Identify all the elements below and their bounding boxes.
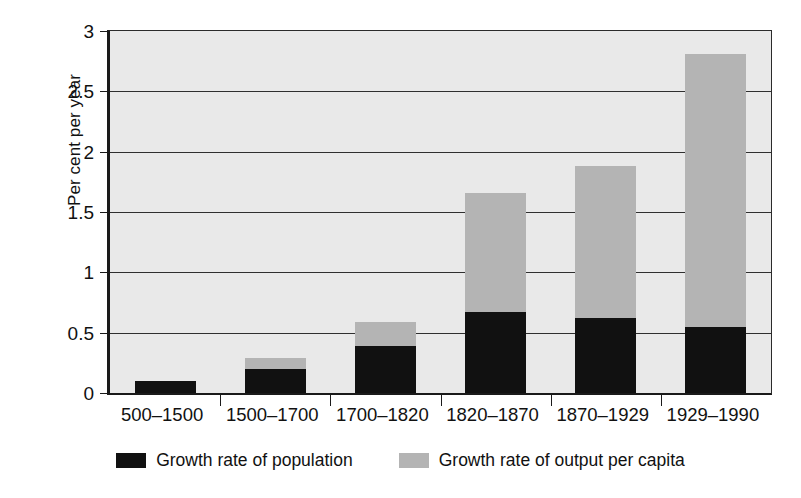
y-axis-tick-label: 0.5 xyxy=(68,323,94,344)
chart-figure: Per cent per year 00.511.522.53 500–1500… xyxy=(0,0,801,498)
bar-segment-population xyxy=(245,369,306,393)
y-axis-tick-label: 1.5 xyxy=(68,202,94,223)
plot-area: 00.511.522.53 xyxy=(107,30,772,395)
y-axis-tick: 0 xyxy=(100,393,110,394)
x-axis-tick-label: 1929–1990 xyxy=(658,404,768,426)
y-axis-tick-label: 0 xyxy=(83,383,94,404)
y-axis-tick-label: 3 xyxy=(83,21,94,42)
gridline xyxy=(110,212,771,213)
y-axis-tick: 2.5 xyxy=(100,91,110,92)
bar-segment-output-per-capita xyxy=(465,193,526,312)
y-axis-tick: 2 xyxy=(100,152,110,153)
bar-segment-population xyxy=(135,381,196,393)
x-axis-tick-label: 1870–1929 xyxy=(548,404,658,426)
bar-segment-population xyxy=(465,312,526,393)
y-axis-tick: 1 xyxy=(100,272,110,273)
y-axis-tick-label: 2.5 xyxy=(68,81,94,102)
gray-swatch-icon xyxy=(399,453,429,468)
gridline xyxy=(110,152,771,153)
y-axis-tick: 3 xyxy=(100,31,110,32)
y-axis-tick: 1.5 xyxy=(100,212,110,213)
legend-item: Growth rate of output per capita xyxy=(399,450,685,470)
bar-stack xyxy=(685,54,746,393)
legend-label: Growth rate of population xyxy=(156,450,353,470)
y-axis-tick-label: 1 xyxy=(83,262,94,283)
bar-stack xyxy=(135,381,196,393)
bar-segment-population xyxy=(355,346,416,393)
bar-segment-output-per-capita xyxy=(355,322,416,346)
x-axis-tick-label: 1820–1870 xyxy=(438,404,548,426)
y-axis-tick: 0.5 xyxy=(100,333,110,334)
x-axis-tick-label: 1500–1700 xyxy=(217,404,327,426)
gridline xyxy=(110,333,771,334)
gridline xyxy=(110,91,771,92)
bar-segment-output-per-capita xyxy=(245,358,306,369)
bar-stack xyxy=(575,166,636,393)
bar-stack xyxy=(465,193,526,393)
x-axis-tick-label: 1700–1820 xyxy=(327,404,437,426)
black-swatch-icon xyxy=(116,453,146,468)
x-axis-tick-label: 500–1500 xyxy=(107,404,217,426)
bar-segment-population xyxy=(575,318,636,393)
bar-segment-output-per-capita xyxy=(575,166,636,318)
y-axis-title: Per cent per year xyxy=(65,0,85,290)
bar-stack xyxy=(245,358,306,393)
bar-segment-population xyxy=(685,327,746,393)
bar-stack xyxy=(355,322,416,393)
legend-label: Growth rate of output per capita xyxy=(439,450,685,470)
bar-segment-output-per-capita xyxy=(685,54,746,327)
legend-item: Growth rate of population xyxy=(116,450,353,470)
chart-legend: Growth rate of populationGrowth rate of … xyxy=(0,450,801,470)
y-axis-tick-label: 2 xyxy=(83,142,94,163)
gridline xyxy=(110,272,771,273)
